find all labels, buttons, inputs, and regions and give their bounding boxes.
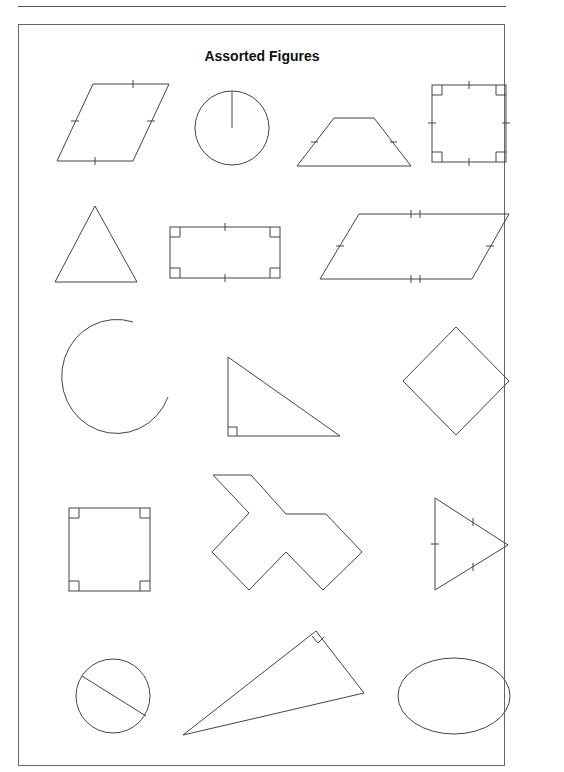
parallelogram-double-ticks [320, 210, 509, 283]
ellipse [398, 658, 510, 734]
circle-diameter [76, 659, 150, 733]
triangle [55, 206, 137, 282]
rectangle [170, 223, 280, 282]
rhombus [403, 327, 509, 435]
right-triangle-rotated [183, 631, 364, 735]
square-ticks [428, 81, 510, 166]
isosceles-trapezoid [297, 118, 411, 166]
open-arc [62, 319, 168, 433]
square-right-angles [69, 508, 150, 591]
right-triangle [228, 357, 340, 436]
isosceles-triangle [431, 498, 508, 590]
figures-canvas [0, 0, 564, 772]
circle-radius [195, 91, 269, 165]
parallelogram-congruent [57, 80, 169, 165]
irregular-polygon [212, 475, 362, 590]
